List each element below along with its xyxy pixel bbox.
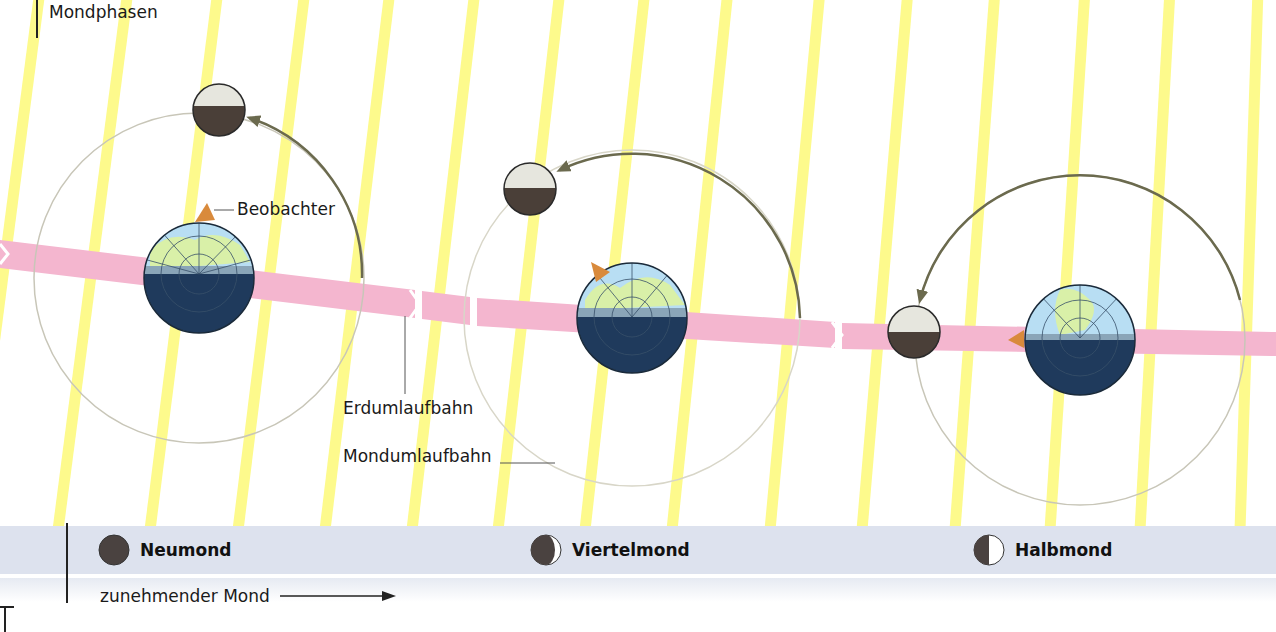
band-divider: [66, 523, 68, 603]
phase-label: Neumond: [140, 540, 232, 560]
observer-marker: [195, 203, 215, 222]
phase-new-moon: Neumond: [98, 534, 232, 566]
corner-mark: [0, 606, 14, 608]
observer-label: Beobachter: [237, 201, 335, 218]
phase-half-moon: Halbmond: [973, 534, 1112, 566]
title-bar-mark: [36, 0, 38, 38]
crescent-moon-icon: [530, 534, 562, 566]
moon-3: [885, 305, 945, 362]
earth-3: [1008, 284, 1137, 400]
new-moon-icon: [98, 534, 130, 566]
diagram-title: Mondphasen: [49, 4, 158, 21]
phase-label: Viertelmond: [572, 540, 690, 560]
half-moon-icon: [973, 534, 1005, 566]
corner-mark: [4, 608, 6, 632]
phase-crescent-moon: Viertelmond: [530, 534, 690, 566]
waxing-label: zunehmender Mond: [100, 586, 270, 606]
earth-2: [575, 262, 690, 377]
earth-orbit-label: Erdumlaufbahn: [343, 400, 473, 417]
phase-label: Halbmond: [1015, 540, 1112, 560]
waxing-moon-indicator: zunehmender Mond: [100, 586, 396, 606]
moon-orbit-label: Mondumlaufbahn: [343, 448, 492, 465]
earth-1: [140, 203, 260, 344]
arrow-right-icon: [280, 590, 396, 602]
